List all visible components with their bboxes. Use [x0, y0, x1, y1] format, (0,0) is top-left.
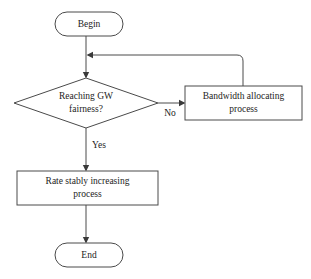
arrowhead-feedback-into-trunk [87, 52, 94, 58]
node-end-label: End [81, 250, 97, 260]
edge-label-yes: Yes [92, 140, 106, 150]
flowchart-diagram: Begin Reaching GW fairness? Bandwidth al… [0, 0, 311, 279]
node-begin-label: Begin [78, 19, 101, 29]
node-bandwidth-label-line1: Bandwidth allocating [203, 91, 285, 101]
node-rate-label-line1: Rate stably increasing [46, 176, 130, 186]
connector-feedback-loop [88, 55, 243, 86]
flowchart-canvas: Begin Reaching GW fairness? Bandwidth al… [0, 0, 311, 279]
node-rate-label-line2: process [73, 189, 102, 199]
node-bandwidth-label-line2: process [229, 104, 258, 114]
edge-label-no: No [164, 108, 176, 118]
node-decision-label-line1: Reaching GW [59, 91, 113, 101]
node-decision-label-line2: fairness? [69, 104, 103, 114]
node-decision [14, 78, 158, 128]
